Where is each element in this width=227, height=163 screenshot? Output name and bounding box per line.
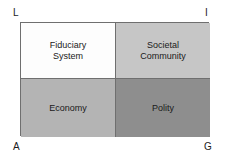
quadrant-label-societal-community: Societal Community (140, 40, 186, 62)
corner-label-i: I (205, 8, 208, 18)
quadrant-label-economy: Economy (49, 103, 87, 114)
corner-label-g: G (204, 142, 212, 152)
diagram-canvas: L I A G Fiduciary System Societal Commun… (0, 0, 227, 163)
corner-label-l: L (13, 8, 19, 18)
quadrant-label-fiduciary-system: Fiduciary System (50, 40, 87, 62)
quadrant-polity: Polity (116, 79, 210, 137)
quadrant-economy: Economy (21, 79, 116, 137)
quadrant-fiduciary-system: Fiduciary System (21, 23, 116, 79)
quadrant-label-polity: Polity (152, 103, 174, 114)
quadrant-societal-community: Societal Community (116, 23, 210, 79)
corner-label-a: A (13, 142, 20, 152)
agil-matrix: Fiduciary System Societal Community Econ… (20, 22, 209, 136)
